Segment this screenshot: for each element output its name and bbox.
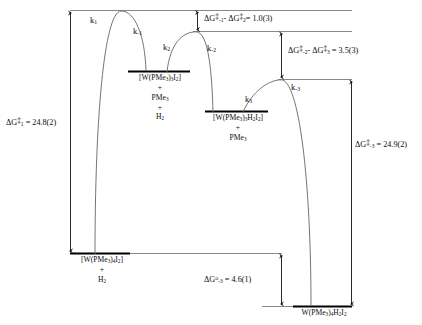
energy-label-dG1-text: ΔG‡1 = 24.8(2) bbox=[6, 118, 56, 127]
species-int2-cospecies-1: PMe3 bbox=[197, 134, 279, 143]
energy-label-dGm3-text: ΔG‡-3 = 24.9(2) bbox=[355, 140, 407, 149]
species-reactant-coreactant: H2 bbox=[62, 276, 142, 285]
rate-label-k2: k2 bbox=[163, 43, 170, 52]
rate-label-k-minus-3-text: k-3 bbox=[291, 82, 300, 92]
rate-label-k3-text: k3 bbox=[245, 94, 252, 104]
rate-label-k-minus-3: k-3 bbox=[291, 83, 300, 92]
species-int1-cospecies-2: H2 bbox=[120, 113, 200, 122]
rate-label-k-minus-1: k-1 bbox=[133, 27, 142, 36]
species-int1-plus-1: + bbox=[120, 84, 200, 92]
species-reactant-plus-1: + bbox=[62, 266, 142, 274]
barrier-curve-1 bbox=[95, 11, 146, 254]
species-product-formula: W(PMe3)4H2I2 bbox=[288, 309, 360, 318]
species-label-product: W(PMe3)4H2I2 bbox=[288, 309, 360, 318]
rate-label-k1: k1 bbox=[90, 16, 97, 25]
species-label-reactant: [W(PMe3)4I2] + H2 bbox=[62, 256, 142, 284]
rate-label-k-minus-1-text: k-1 bbox=[133, 26, 142, 36]
rate-label-k2-text: k2 bbox=[163, 42, 170, 52]
species-reactant-formula: [W(PMe3)4I2] bbox=[62, 256, 142, 265]
energy-label-dGm3: ΔG‡-3 = 24.9(2) bbox=[355, 140, 407, 150]
energy-label-dG0m3: ΔGo-3 = 4.6(1) bbox=[204, 275, 251, 286]
energy-profile-diagram: k1 k-1 k2 k-2 k3 k-3 [W(PMe3)4I2] + H2 [… bbox=[0, 0, 422, 325]
species-label-intermediate-1: [W(PMe3)3I2] + PMe3 + H2 bbox=[120, 74, 200, 122]
energy-label-dG0m3-text: ΔGo-3 = 4.6(1) bbox=[204, 275, 251, 284]
species-int1-cospecies-1: PMe3 bbox=[120, 94, 200, 103]
energy-label-dG1: ΔG‡1 = 24.8(2) bbox=[6, 118, 56, 128]
species-int1-plus-2: + bbox=[120, 104, 200, 112]
species-int2-plus-1: + bbox=[197, 124, 279, 132]
species-int1-formula: [W(PMe3)3I2] bbox=[120, 74, 200, 83]
rate-label-k-minus-2: k-2 bbox=[207, 44, 216, 53]
species-int2-formula: [W(PMe3)3H2I2] bbox=[197, 114, 279, 123]
energy-label-dGm1-dG2-text: ΔG‡-1- ΔG‡2= 1.0(3) bbox=[204, 14, 272, 23]
energy-label-dGm2-dG3: ΔG‡-2- ΔG‡3 = 3.5(3) bbox=[288, 46, 358, 56]
energy-label-dGm2-dG3-text: ΔG‡-2- ΔG‡3 = 3.5(3) bbox=[288, 46, 358, 55]
species-label-intermediate-2: [W(PMe3)3H2I2] + PMe3 bbox=[197, 114, 279, 142]
energy-label-dGm1-dG2: ΔG‡-1- ΔG‡2= 1.0(3) bbox=[204, 14, 272, 24]
rate-label-k3: k3 bbox=[245, 95, 252, 104]
rate-label-k1-text: k1 bbox=[90, 15, 97, 25]
rate-label-k-minus-2-text: k-2 bbox=[207, 43, 216, 53]
